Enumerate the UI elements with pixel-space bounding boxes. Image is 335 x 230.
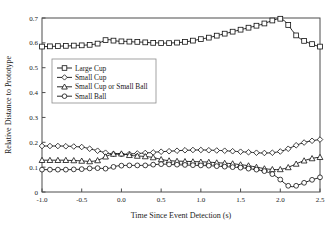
x-tick-label: -0.5 <box>76 196 88 204</box>
y-tick-label: 0.5 <box>29 64 38 72</box>
marker-circle <box>286 183 291 188</box>
marker-circle <box>278 177 283 182</box>
marker-square <box>40 44 45 49</box>
marker-diamond <box>230 148 236 154</box>
marker-diamond <box>293 142 299 148</box>
marker-circle <box>62 94 67 99</box>
legend-label: Large Cup <box>75 64 107 73</box>
marker-square <box>302 38 307 43</box>
marker-square <box>191 38 196 43</box>
marker-square <box>167 41 172 46</box>
marker-circle <box>55 167 60 172</box>
marker-square <box>206 35 211 40</box>
marker-circle <box>310 177 315 182</box>
x-tick-label: 2.5 <box>316 196 325 204</box>
marker-square <box>294 33 299 38</box>
marker-diamond <box>206 147 212 153</box>
marker-square <box>62 66 67 71</box>
marker-diamond <box>71 144 77 150</box>
marker-circle <box>183 163 188 168</box>
marker-square <box>119 39 124 44</box>
marker-circle <box>175 162 180 167</box>
marker-circle <box>151 162 156 167</box>
marker-square <box>127 39 132 44</box>
marker-diamond <box>198 147 204 153</box>
marker-circle <box>222 164 227 169</box>
marker-diamond <box>182 147 188 153</box>
marker-square <box>79 43 84 48</box>
x-tick-label: 0.0 <box>117 196 126 204</box>
marker-square <box>135 39 140 44</box>
marker-diamond <box>277 149 283 155</box>
marker-circle <box>159 162 164 167</box>
legend-label: Small Cup or Small Ball <box>75 82 148 91</box>
marker-diamond <box>222 148 228 154</box>
marker-circle <box>111 164 116 169</box>
series-path <box>42 19 320 47</box>
marker-square <box>87 42 92 47</box>
marker-diamond <box>270 150 276 156</box>
marker-circle <box>318 175 323 180</box>
marker-square <box>318 44 323 49</box>
y-tick-label: 0.7 <box>29 15 38 23</box>
marker-diamond <box>39 143 45 149</box>
marker-circle <box>87 166 92 171</box>
marker-diamond <box>79 144 85 150</box>
marker-triangle <box>293 161 299 166</box>
marker-diamond <box>285 146 291 152</box>
series-small-ball <box>40 162 323 188</box>
marker-circle <box>95 166 100 171</box>
y-tick-label: 0.6 <box>29 39 38 47</box>
marker-triangle <box>103 154 109 159</box>
marker-diamond <box>214 148 220 154</box>
marker-square <box>254 23 259 28</box>
marker-circle <box>127 163 132 168</box>
marker-circle <box>79 167 84 172</box>
x-tick-label: 0.5 <box>157 196 166 204</box>
series-large-cup <box>40 16 323 49</box>
legend-label: Small Cup <box>75 73 107 82</box>
series-small-cup <box>39 137 323 157</box>
marker-circle <box>262 169 267 174</box>
marker-circle <box>71 167 76 172</box>
marker-circle <box>302 180 307 185</box>
marker-square <box>270 18 275 23</box>
marker-diamond <box>317 137 323 143</box>
marker-square <box>278 16 283 21</box>
marker-square <box>238 27 243 32</box>
marker-circle <box>143 163 148 168</box>
marker-diamond <box>63 143 69 149</box>
y-tick-label: 0.3 <box>29 114 38 122</box>
y-tick-label: 0.2 <box>29 139 38 147</box>
y-axis-title: Relative Distance to Prototype <box>4 56 13 154</box>
marker-circle <box>270 172 275 177</box>
marker-square <box>143 40 148 45</box>
marker-circle <box>167 162 172 167</box>
marker-square <box>175 40 180 45</box>
marker-square <box>71 43 76 48</box>
marker-diamond <box>246 149 252 155</box>
marker-square <box>214 33 219 38</box>
marker-circle <box>206 163 211 168</box>
marker-diamond <box>55 143 61 149</box>
marker-diamond <box>309 138 315 144</box>
chart-legend: Large CupSmall CupSmall Cup or Small Bal… <box>52 59 156 103</box>
marker-circle <box>238 165 243 170</box>
marker-diamond <box>87 146 93 152</box>
x-axis-title: Time Since Event Detection (s) <box>131 211 232 220</box>
marker-square <box>286 23 291 28</box>
legend-label: Small Ball <box>75 92 106 101</box>
marker-square <box>222 31 227 36</box>
marker-diamond <box>166 148 172 154</box>
marker-square <box>262 21 267 26</box>
marker-circle <box>48 167 53 172</box>
marker-diamond <box>254 150 260 156</box>
marker-square <box>48 44 53 49</box>
marker-square <box>55 44 60 49</box>
marker-square <box>111 38 116 43</box>
x-tick-label: 2.0 <box>276 196 285 204</box>
marker-circle <box>246 166 251 171</box>
line-chart: -1.0-0.50.00.51.01.52.02.500.10.20.30.40… <box>0 0 335 230</box>
marker-circle <box>135 163 140 168</box>
marker-square <box>95 41 100 46</box>
